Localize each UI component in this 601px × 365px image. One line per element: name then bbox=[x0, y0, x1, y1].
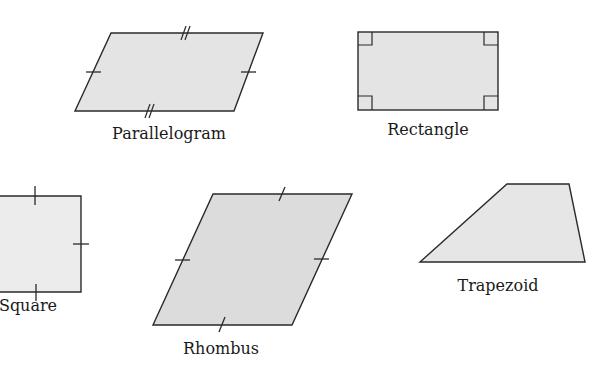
rectangle-label: Rectangle bbox=[387, 120, 469, 139]
trapezoid-label: Trapezoid bbox=[458, 276, 539, 295]
rhombus-shape bbox=[153, 187, 352, 332]
square-label: Square bbox=[0, 296, 57, 315]
parallelogram-shape bbox=[75, 26, 263, 118]
square-shape bbox=[0, 186, 89, 301]
rectangle-shape bbox=[358, 32, 498, 110]
parallelogram-label: Parallelogram bbox=[112, 124, 226, 143]
trapezoid-shape bbox=[420, 184, 585, 262]
quadrilaterals-diagram bbox=[0, 0, 601, 365]
rhombus-label: Rhombus bbox=[183, 339, 259, 358]
